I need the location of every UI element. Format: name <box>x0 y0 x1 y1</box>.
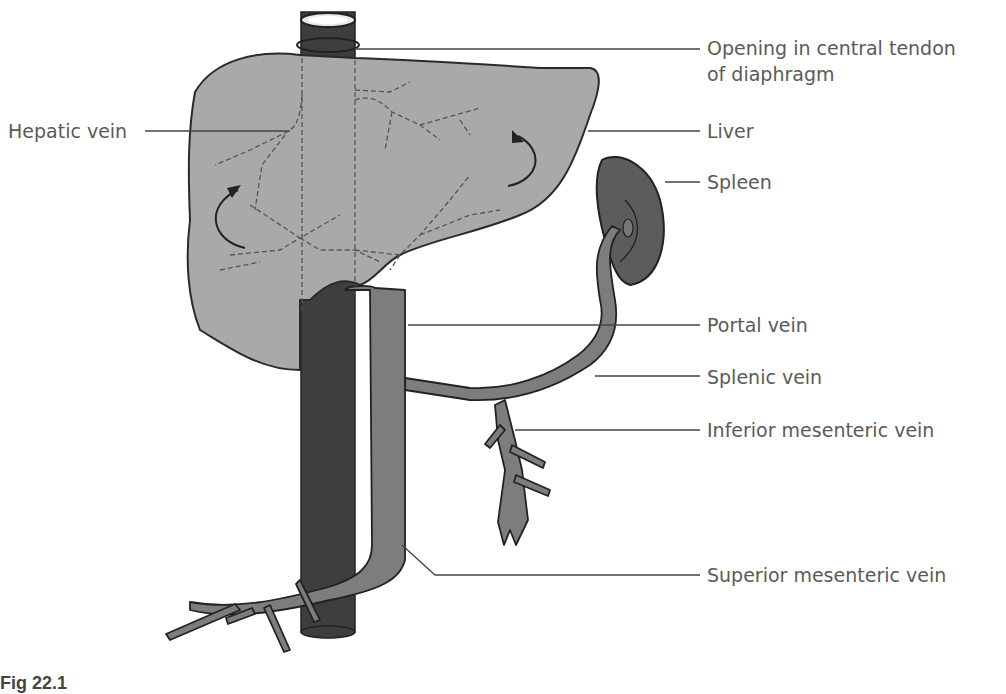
figure-caption: Fig 22.1 <box>0 673 67 694</box>
label-spleen: Spleen <box>707 170 772 194</box>
label-opening-diaphragm-line2: of diaphragm <box>707 62 834 86</box>
label-hepatic-vein: Hepatic vein <box>8 119 127 143</box>
leader-superior-mesenteric <box>402 545 700 575</box>
label-splenic-vein: Splenic vein <box>707 365 822 389</box>
label-portal-vein: Portal vein <box>707 313 808 337</box>
label-superior-mesenteric-vein: Superior mesenteric vein <box>707 563 946 587</box>
label-liver: Liver <box>707 119 754 143</box>
label-opening-diaphragm: Opening in central tendon <box>707 36 956 60</box>
label-inferior-mesenteric-vein: Inferior mesenteric vein <box>707 418 934 442</box>
